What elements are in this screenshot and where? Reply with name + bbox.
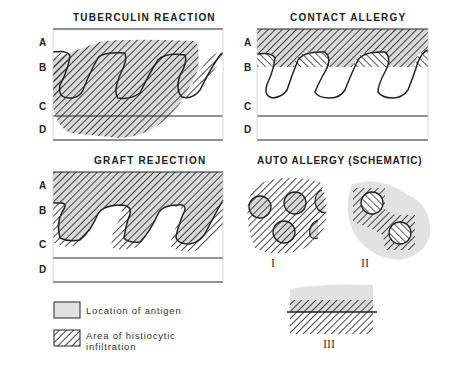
layer-label-d: D: [39, 124, 46, 135]
diagram-canvas: [0, 0, 451, 382]
layer-label-b: B: [39, 62, 46, 73]
subfigure-label-1: I: [271, 256, 275, 271]
layer-label-c: C: [39, 239, 46, 250]
legend-antigen-label: Location of antigen: [86, 305, 182, 316]
layer-label-c: C: [244, 101, 251, 112]
graft-panel: [53, 172, 223, 282]
layer-label-d: D: [244, 124, 251, 135]
tuberculin-panel: [53, 29, 223, 140]
layer-label-a: A: [39, 180, 46, 191]
subfigure-label-2: II: [361, 256, 369, 271]
contact-panel: [257, 29, 428, 140]
layer-label-d: D: [39, 264, 46, 275]
subfigure-label-3: III: [323, 337, 335, 352]
contact-title: CONTACT ALLERGY: [290, 12, 406, 23]
auto-allergy-fig-2: [348, 181, 431, 260]
auto-allergy-fig-1: [247, 178, 326, 254]
layer-label-b: B: [244, 62, 251, 73]
graft-title: GRAFT REJECTION: [94, 155, 206, 166]
layer-label-c: C: [39, 101, 46, 112]
layer-label-b: B: [39, 205, 46, 216]
legend-infiltration-label-line2: infiltration: [86, 341, 136, 352]
tuberculin-title: TUBERCULIN REACTION: [73, 12, 216, 23]
layer-label-a: A: [39, 37, 46, 48]
layer-label-a: A: [244, 37, 251, 48]
antigen-swatch: [54, 302, 80, 318]
infiltration-swatch: [54, 330, 80, 346]
legend-infiltration-label-line1: Area of histiocytic: [86, 330, 176, 341]
auto-allergy-fig-3: [287, 285, 377, 335]
auto-allergy-title: AUTO ALLERGY (SCHEMATIC): [257, 155, 423, 166]
